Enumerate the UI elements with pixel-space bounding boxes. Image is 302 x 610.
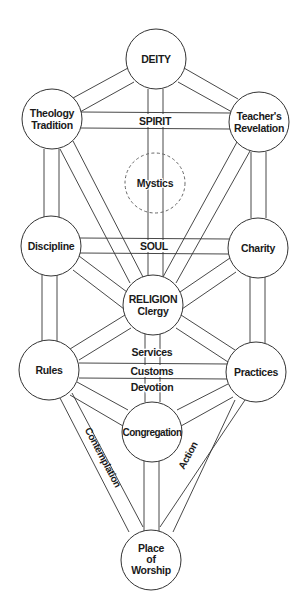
node-discipline: Discipline bbox=[21, 216, 81, 276]
path-label-contemplation: Contemplation bbox=[83, 426, 124, 490]
node-teachers-label: Teacher's bbox=[236, 110, 282, 122]
node-tradition-label: Tradition bbox=[31, 119, 73, 131]
node-revelation-label: Revelation bbox=[234, 122, 284, 134]
node-worship-label: Worship bbox=[131, 564, 171, 576]
node-mystics: Mystics bbox=[125, 153, 185, 213]
node-religion-clergy: RELIGION Clergy bbox=[123, 275, 183, 335]
node-clergy-label: Clergy bbox=[138, 305, 169, 317]
node-charity: Charity bbox=[228, 218, 288, 278]
node-religion-label: RELIGION bbox=[129, 293, 177, 305]
path-label-services: Services bbox=[132, 346, 173, 358]
path-label-customs: Customs bbox=[131, 365, 174, 377]
node-mystics-label: Mystics bbox=[137, 177, 174, 189]
path-label-spirit: SPIRIT bbox=[139, 115, 172, 127]
node-place-of-worship: Place of Worship bbox=[121, 530, 181, 590]
path-label-devotion: Devotion bbox=[131, 381, 174, 393]
node-rules: Rules bbox=[19, 340, 79, 400]
node-congregation: Congregation bbox=[122, 402, 182, 462]
path-label-soul: SOUL bbox=[140, 240, 169, 252]
node-theology-tradition: Theology Tradition bbox=[22, 89, 82, 149]
node-teachers-revelation: Teacher's Revelation bbox=[229, 92, 289, 152]
node-theology-label: Theology bbox=[30, 107, 75, 119]
node-charity-label: Charity bbox=[241, 242, 276, 254]
node-discipline-label: Discipline bbox=[28, 240, 75, 252]
node-practices: Practices bbox=[226, 342, 286, 402]
node-congregation-label: Congregation bbox=[123, 427, 182, 438]
node-rules-label: Rules bbox=[35, 364, 63, 376]
node-practices-label: Practices bbox=[234, 366, 278, 378]
node-deity: DEITY bbox=[126, 29, 186, 89]
node-deity-label: DEITY bbox=[141, 53, 171, 65]
tree-of-religion-diagram: DEITY Theology Tradition Teacher's Revel… bbox=[0, 0, 302, 610]
